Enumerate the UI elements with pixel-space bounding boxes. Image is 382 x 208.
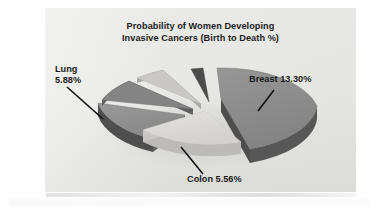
leader-line-lung: [67, 87, 103, 119]
bottom-edge-artifact: [46, 193, 356, 197]
chart-panel: Probability of Women Developing Invasive…: [45, 8, 356, 192]
pie-chart-graphic: [45, 8, 356, 192]
screenshot-stage: Probability of Women Developing Invasive…: [0, 0, 382, 208]
slice-label-lung-value: 5.88%: [55, 75, 81, 86]
slice-label-colon: Colon 5.56%: [187, 174, 242, 185]
bottom-faint-artifact: [10, 199, 370, 206]
slice-label-lung-name: Lung: [55, 64, 81, 75]
slice-label-breast: Breast 13.30%: [249, 74, 311, 85]
slice-label-lung: Lung 5.88%: [55, 64, 81, 85]
